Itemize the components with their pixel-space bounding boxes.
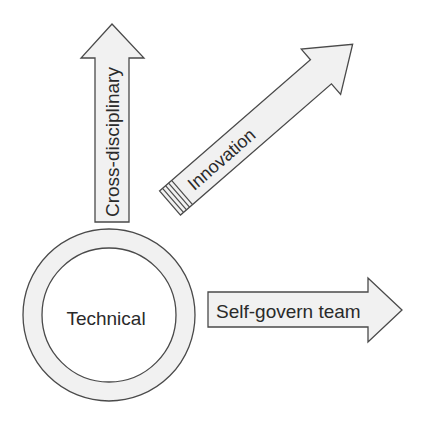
arrow-cross-disciplinary: Cross-disciplinary: [81, 24, 144, 222]
center-label: Technical: [66, 308, 145, 329]
arrow-cross-disciplinary-label: Cross-disciplinary: [102, 67, 123, 217]
arrow-innovation: Innovation: [150, 22, 372, 226]
arrow-self-govern-team-label: Self-govern team: [216, 301, 361, 322]
diagram-canvas: Cross-disciplinary Innovation Self-gover…: [0, 0, 421, 426]
arrow-self-govern-team: Self-govern team: [208, 278, 402, 342]
center-ring: Technical: [23, 229, 195, 401]
